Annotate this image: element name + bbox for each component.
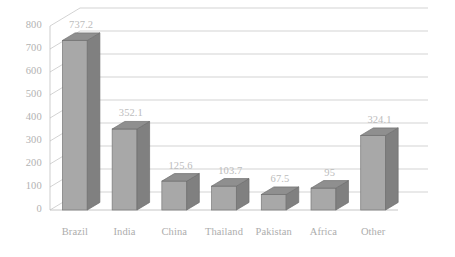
bar-side-face bbox=[87, 33, 100, 210]
y-axis-tick-label: 800 bbox=[8, 19, 42, 30]
bar-value-label: 324.1 bbox=[349, 114, 409, 125]
bar-side-face bbox=[386, 128, 399, 210]
bar-front-face bbox=[261, 194, 286, 210]
chart-canvas bbox=[0, 0, 455, 257]
y-axis-tick-label: 200 bbox=[8, 157, 42, 168]
bar-value-label: 352.1 bbox=[101, 107, 161, 118]
bar-value-label: 737.2 bbox=[51, 19, 111, 30]
y-axis-tick-label: 700 bbox=[8, 42, 42, 53]
bar-front-face bbox=[62, 40, 87, 210]
y-axis-tick-label: 300 bbox=[8, 134, 42, 145]
bar-front-face bbox=[112, 129, 137, 210]
y-axis-tick-label: 500 bbox=[8, 88, 42, 99]
bar-value-label: 95 bbox=[300, 167, 360, 178]
category-label: Africa bbox=[299, 226, 349, 237]
bar-front-face bbox=[361, 135, 386, 210]
category-label: Brazil bbox=[50, 226, 100, 237]
bar-series bbox=[62, 33, 398, 210]
y-axis-tick-label: 600 bbox=[8, 65, 42, 76]
category-label: China bbox=[149, 226, 199, 237]
category-label: Other bbox=[348, 226, 398, 237]
bar-chart: 0100200300400500600700800 737.2352.1125.… bbox=[0, 0, 455, 257]
y-axis-tick-label: 0 bbox=[8, 203, 42, 214]
bar-front-face bbox=[162, 181, 187, 210]
plot-area: 0100200300400500600700800 737.2352.1125.… bbox=[0, 0, 455, 257]
y-axis-tick-label: 400 bbox=[8, 111, 42, 122]
category-label: Pakistan bbox=[249, 226, 299, 237]
y-axis-tick-label: 100 bbox=[8, 180, 42, 191]
bar-front-face bbox=[212, 186, 237, 210]
bar-front-face bbox=[311, 188, 336, 210]
category-label: Thailand bbox=[199, 226, 249, 237]
category-label: India bbox=[100, 226, 150, 237]
bar-side-face bbox=[137, 121, 150, 210]
